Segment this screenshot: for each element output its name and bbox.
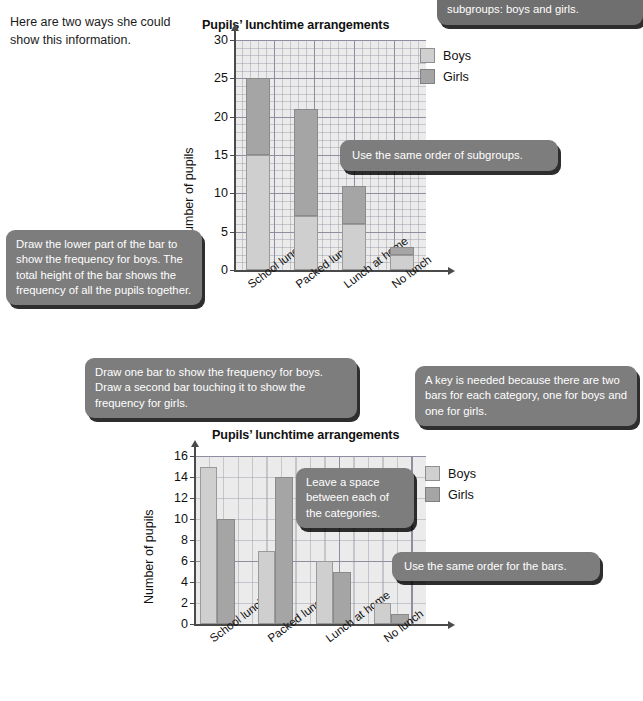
bar-boys xyxy=(258,551,275,625)
y-axis-arrow-icon xyxy=(191,440,199,447)
legend-item-girls: Girls xyxy=(420,69,471,84)
y-axis-line xyxy=(194,447,196,624)
callout-leave-space: Leave a space between each of the catego… xyxy=(296,468,414,528)
callout-key-needed: A key is needed because there are two ba… xyxy=(415,366,637,426)
callout-same-order-bars: Use the same order for the bars. xyxy=(392,552,600,581)
y-axis-tick-mark xyxy=(190,603,195,604)
legend-swatch-girls-icon xyxy=(420,69,435,84)
y-axis-tick-mark xyxy=(190,540,195,541)
y-axis-tick-label: 8 xyxy=(160,533,188,547)
y-axis-tick-mark xyxy=(190,519,195,520)
callout-bar-divided: bar is divided to show the two subgroups… xyxy=(437,0,643,25)
y-axis-tick-label: 14 xyxy=(160,470,188,484)
y-axis-line xyxy=(234,31,236,270)
worksheet-page: Here are two ways she could show this in… xyxy=(0,0,643,701)
y-axis-tick-label: 6 xyxy=(160,554,188,568)
x-axis-arrow-icon xyxy=(448,621,455,629)
y-axis-tick-label: 30 xyxy=(200,33,228,47)
legend-grouped: Boys Girls xyxy=(425,466,476,508)
y-axis-tick-label: 0 xyxy=(200,263,228,277)
intro-text: Here are two ways she could show this in… xyxy=(10,14,200,50)
y-axis-tick-label: 16 xyxy=(160,449,188,463)
y-axis-tick-label: 12 xyxy=(160,491,188,505)
y-axis-tick-mark xyxy=(190,456,195,457)
bar-girls xyxy=(246,78,271,155)
y-axis-title: Number of pupils xyxy=(142,509,156,604)
x-axis-arrow-icon xyxy=(448,267,455,275)
bar-girls xyxy=(294,109,319,216)
legend-item-boys: Boys xyxy=(420,48,471,63)
y-axis-tick-label: 4 xyxy=(160,575,188,589)
y-axis-tick-mark xyxy=(230,117,235,118)
legend-stacked: Boys Girls xyxy=(420,48,471,90)
bar-girls xyxy=(390,247,415,255)
bar-girls xyxy=(275,477,292,624)
callout-same-order-subgroups: Use the same order of subgroups. xyxy=(340,140,558,171)
y-axis-tick-label: 2 xyxy=(160,596,188,610)
y-axis-tick-label: 5 xyxy=(200,225,228,239)
bar-boys xyxy=(316,561,333,624)
y-axis-tick-mark xyxy=(230,78,235,79)
legend-label-boys: Boys xyxy=(443,49,471,63)
y-axis-tick-mark xyxy=(230,155,235,156)
y-axis-tick-mark xyxy=(190,582,195,583)
legend-label-girls: Girls xyxy=(448,488,474,502)
bar-boys xyxy=(200,467,217,625)
y-axis-tick-label: 10 xyxy=(200,186,228,200)
y-axis-tick-label: 0 xyxy=(160,617,188,631)
y-axis-tick-label: 20 xyxy=(200,110,228,124)
bar-boys xyxy=(246,155,271,270)
bar-girls xyxy=(342,186,367,224)
y-axis-tick-label: 25 xyxy=(200,71,228,85)
y-axis-tick-mark xyxy=(190,561,195,562)
legend-label-boys: Boys xyxy=(448,467,476,481)
bar-boys xyxy=(374,603,391,624)
legend-swatch-girls-icon xyxy=(425,487,440,502)
y-axis-tick-mark xyxy=(230,193,235,194)
legend-item-boys: Boys xyxy=(425,466,476,481)
chart-title-grouped: Pupils’ lunchtime arrangements xyxy=(212,428,399,442)
y-axis-title: Number of pupils xyxy=(182,148,196,243)
legend-swatch-boys-icon xyxy=(425,466,440,481)
callout-lower-part: Draw the lower part of the bar to show t… xyxy=(6,230,202,305)
y-axis-tick-label: 15 xyxy=(200,148,228,162)
legend-item-girls: Girls xyxy=(425,487,476,502)
bar-girls xyxy=(217,519,234,624)
y-axis-arrow-icon xyxy=(231,24,239,31)
y-axis-tick-label: 10 xyxy=(160,512,188,526)
y-axis-tick-mark xyxy=(190,498,195,499)
callout-draw-one-bar: Draw one bar to show the frequency for b… xyxy=(85,358,357,418)
y-axis-tick-mark xyxy=(190,477,195,478)
legend-label-girls: Girls xyxy=(443,70,469,84)
y-axis-tick-mark xyxy=(190,624,195,625)
y-axis-tick-mark xyxy=(230,40,235,41)
y-axis-tick-mark xyxy=(230,232,235,233)
legend-swatch-boys-icon xyxy=(420,48,435,63)
y-axis-tick-mark xyxy=(230,270,235,271)
